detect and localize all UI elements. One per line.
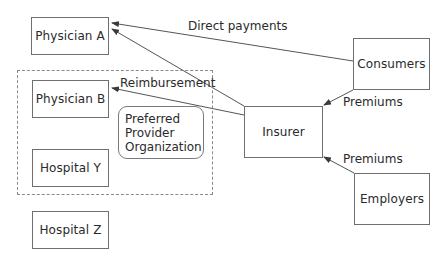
node-employers: Employers [354, 173, 430, 225]
node-hospital-z: Hospital Z [32, 211, 109, 249]
node-physician-b: Physician B [32, 80, 109, 118]
ppo-line-2: Provider [125, 126, 197, 140]
ppo-line-3: Organization [125, 140, 197, 154]
edge-label-premiums-consumers: Premiums [343, 95, 403, 109]
node-consumers: Consumers [353, 38, 430, 90]
ppo-label-box: Preferred Provider Organization [118, 106, 204, 159]
node-label: Physician A [35, 29, 105, 43]
node-label: Hospital Z [40, 223, 102, 237]
node-label: Consumers [357, 57, 425, 71]
node-label: Physician B [36, 92, 106, 106]
diagram-canvas: Physician A Physician B Hospital Y Hospi… [0, 0, 446, 259]
node-physician-a: Physician A [31, 17, 109, 55]
edge-label-direct-payments: Direct payments [188, 19, 287, 33]
node-label: Insurer [262, 125, 305, 139]
node-label: Employers [360, 192, 424, 206]
node-hospital-y: Hospital Y [32, 149, 109, 187]
ppo-line-1: Preferred [125, 112, 197, 126]
node-insurer: Insurer [244, 106, 323, 158]
edge-label-premiums-employers: Premiums [343, 152, 403, 166]
node-label: Hospital Y [40, 161, 101, 175]
edge-label-reimbursement: Reimbursement [120, 76, 215, 90]
